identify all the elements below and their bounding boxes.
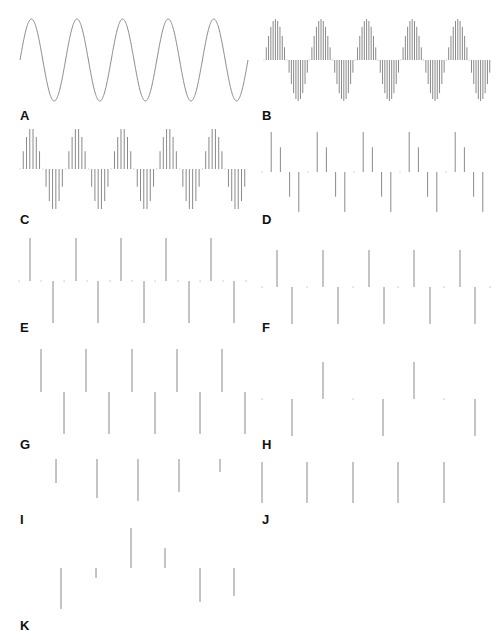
zero-sample-dot xyxy=(490,287,491,288)
panel-label-d: D xyxy=(262,213,271,226)
zero-sample-dot xyxy=(353,287,354,288)
zero-sample-dot xyxy=(155,281,156,282)
panel-k xyxy=(61,528,234,609)
zero-sample-dot xyxy=(156,169,157,170)
zero-sample-dot xyxy=(308,172,309,173)
zero-sample-dot xyxy=(178,281,179,282)
zero-sample-dot xyxy=(378,60,379,61)
zero-sample-dot xyxy=(262,172,263,173)
zero-sample-dot xyxy=(200,281,201,282)
zero-sample-dot xyxy=(286,60,287,61)
panel-label-e: E xyxy=(20,321,29,334)
zero-sample-dot xyxy=(444,399,445,400)
zero-sample-dot xyxy=(309,60,310,61)
panel-label-f: F xyxy=(262,321,270,334)
panel-e xyxy=(19,238,247,323)
zero-sample-dot xyxy=(444,287,445,288)
zero-sample-dot xyxy=(262,399,263,400)
panel-label-h: H xyxy=(262,438,271,451)
zero-sample-dot xyxy=(179,169,180,170)
panel-c xyxy=(20,129,245,209)
zero-sample-dot xyxy=(246,281,247,282)
zero-sample-dot xyxy=(41,281,42,282)
panel-label-b: B xyxy=(262,109,271,122)
panel-label-g: G xyxy=(20,438,30,451)
panel-a xyxy=(20,19,248,101)
zero-sample-dot xyxy=(398,287,399,288)
panel-h xyxy=(262,362,476,436)
zero-sample-dot xyxy=(353,399,354,400)
zero-sample-dot xyxy=(88,169,89,170)
panel-label-a: A xyxy=(20,109,29,122)
zero-sample-dot xyxy=(110,281,111,282)
zero-sample-dot xyxy=(202,169,203,170)
zero-sample-dot xyxy=(264,60,265,61)
zero-sample-dot xyxy=(134,169,135,170)
zero-sample-dot xyxy=(446,172,447,173)
zero-sample-dot xyxy=(446,60,447,61)
zero-sample-dot xyxy=(19,281,20,282)
zero-sample-dot xyxy=(42,169,43,170)
zero-sample-dot xyxy=(262,287,263,288)
zero-sample-dot xyxy=(20,169,21,170)
zero-sample-dot xyxy=(223,281,224,282)
zero-sample-dot xyxy=(423,60,424,61)
zero-sample-dot xyxy=(332,60,333,61)
panel-g xyxy=(41,349,245,434)
zero-sample-dot xyxy=(225,169,226,170)
panel-b xyxy=(264,19,490,101)
panel-i xyxy=(56,459,220,501)
zero-sample-dot xyxy=(132,281,133,282)
panel-label-j: J xyxy=(262,513,269,526)
sampling-figure xyxy=(0,0,502,631)
zero-sample-dot xyxy=(400,60,401,61)
zero-sample-dot xyxy=(111,169,112,170)
zero-sample-dot xyxy=(87,281,88,282)
zero-sample-dot xyxy=(469,60,470,61)
zero-sample-dot xyxy=(64,281,65,282)
zero-sample-dot xyxy=(307,287,308,288)
zero-sample-dot xyxy=(65,169,66,170)
zero-sample-dot xyxy=(354,172,355,173)
panel-label-i: I xyxy=(20,513,24,526)
panel-d xyxy=(262,132,483,212)
panel-f xyxy=(262,250,491,324)
panel-label-c: C xyxy=(20,213,29,226)
zero-sample-dot xyxy=(355,60,356,61)
zero-sample-dot xyxy=(400,172,401,173)
panel-j xyxy=(262,462,444,503)
panel-label-k: K xyxy=(20,619,29,631)
sine-curve xyxy=(20,19,248,101)
